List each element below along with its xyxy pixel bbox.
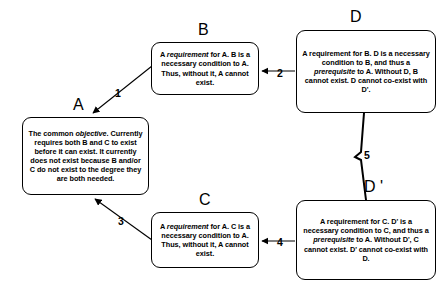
node-label-a: A	[73, 97, 84, 113]
node-label-dprime: D '	[364, 179, 383, 195]
diagram-canvas: The common objective. Currently requires…	[0, 0, 444, 293]
edge-label-2: 2	[277, 68, 283, 79]
node-c-requirement[interactable]: A requirement for A. C is a necessary co…	[151, 212, 259, 268]
node-c-text: A requirement for A. C is a necessary co…	[157, 222, 253, 258]
node-label-b: B	[198, 22, 209, 38]
node-dprime-prerequisite[interactable]: A requirement for C. D' is a necessary c…	[296, 200, 436, 280]
node-d-text: A requirement for B. D is a necessary co…	[302, 49, 430, 94]
edge-label-3: 3	[118, 216, 124, 227]
node-label-c: C	[199, 192, 211, 208]
node-d-prerequisite[interactable]: A requirement for B. D is a necessary co…	[296, 30, 436, 113]
node-a-text: The common objective. Currently requires…	[28, 129, 143, 184]
node-b-requirement[interactable]: A requirement for A. B is a necessary co…	[151, 42, 259, 95]
edge-b-to-a	[93, 66, 152, 113]
node-a-objective[interactable]: The common objective. Currently requires…	[22, 117, 149, 195]
node-dprime-text: A requirement for C. D' is a necessary c…	[302, 217, 430, 262]
node-b-text: A requirement for A. B is a necessary co…	[157, 50, 253, 86]
edge-label-1: 1	[115, 88, 121, 99]
edge-label-5: 5	[364, 150, 370, 161]
node-label-d: D	[350, 9, 362, 25]
edge-label-4: 4	[277, 237, 283, 248]
